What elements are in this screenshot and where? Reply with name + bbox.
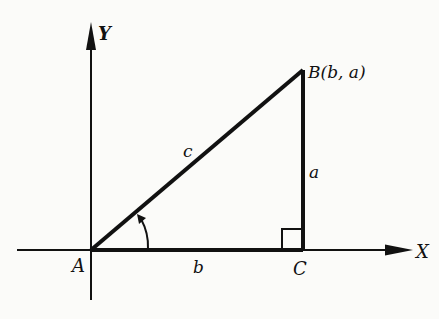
vertex-a-label: A [70,255,85,276]
angle-arc-arrow-icon [137,214,146,224]
angle-arc [141,219,148,249]
x-axis-label: X [414,241,430,262]
vertex-b-label: B(b, a) [307,62,366,82]
right-angle-marker-icon [282,229,303,250]
side-a-label: a [309,162,319,182]
side-b-label: b [193,257,204,277]
vertex-c-label: C [293,258,307,279]
hypotenuse-c [91,70,303,250]
x-axis-arrow-icon [385,245,413,256]
y-axis [86,22,96,300]
y-axis-label: Y [98,23,113,44]
diagram-canvas: Y X A C B(b, a) c a b [0,0,439,319]
y-axis-arrow-icon [86,22,96,50]
side-c-label: c [183,141,193,161]
